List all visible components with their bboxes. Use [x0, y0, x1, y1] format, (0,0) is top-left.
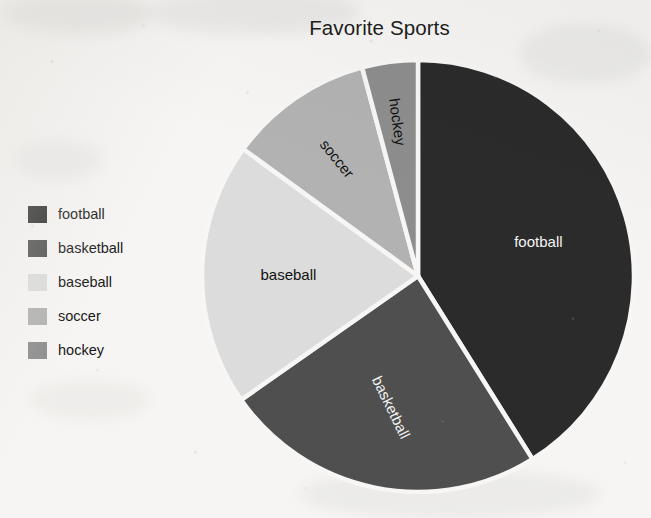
scan-smudge-left	[14, 140, 104, 180]
legend-label-football: football	[58, 206, 105, 222]
legend-item-baseball[interactable]: baseball	[28, 265, 123, 299]
page-title: Favorite Sports	[0, 16, 651, 40]
legend-label-hockey: hockey	[58, 342, 104, 358]
legend-swatch-football	[28, 206, 47, 223]
legend-label-basketball: basketball	[58, 240, 123, 256]
legend-swatch-basketball	[28, 240, 47, 257]
legend-swatch-hockey	[28, 342, 47, 359]
pie-chart-svg: footballbasketballbaseballsoccerhockey	[200, 58, 636, 494]
legend-label-soccer: soccer	[58, 308, 101, 324]
legend-item-basketball[interactable]: basketball	[28, 231, 123, 265]
legend-item-soccer[interactable]: soccer	[28, 299, 123, 333]
scan-smudge-mid-left	[30, 380, 150, 420]
legend-swatch-baseball	[28, 274, 47, 291]
chart-legend: football basketball baseball soccer hock…	[28, 197, 123, 367]
legend-item-hockey[interactable]: hockey	[28, 333, 123, 367]
legend-swatch-soccer	[28, 308, 47, 325]
pie-slice-label-football: football	[514, 233, 562, 250]
pie-slice-label-baseball: baseball	[260, 266, 316, 283]
pie-chart: footballbasketballbaseballsoccerhockey	[200, 58, 636, 494]
legend-item-football[interactable]: football	[28, 197, 123, 231]
legend-label-baseball: baseball	[58, 274, 112, 290]
